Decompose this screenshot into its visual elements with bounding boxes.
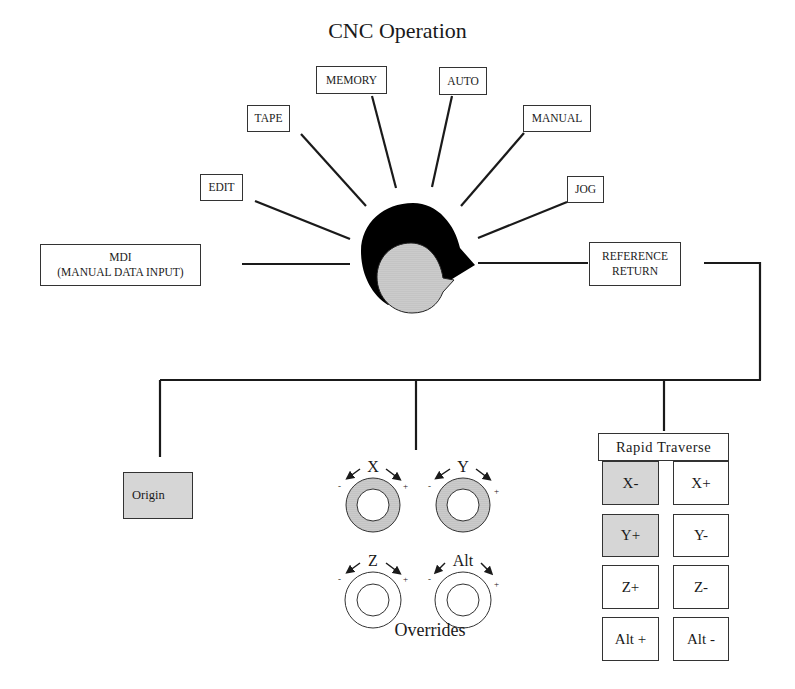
mode-reference-return-sublabel: RETURN: [612, 264, 658, 279]
dial-z-plus: +: [403, 574, 408, 584]
mode-mdi-sublabel: (MANUAL DATA INPUT): [57, 265, 183, 280]
rapid-traverse-title-text: Rapid Traverse: [616, 440, 711, 455]
rapid-z-plus-button[interactable]: Z+: [602, 565, 659, 609]
dial-y-plus: +: [494, 486, 499, 496]
override-dial-y[interactable]: Y: [443, 458, 483, 476]
mode-manual-label: MANUAL: [532, 111, 582, 126]
dial-x-label: X: [367, 458, 379, 475]
overrides-label: Overrides: [380, 620, 480, 641]
mode-mdi[interactable]: MDI (MANUAL DATA INPUT): [40, 244, 201, 286]
mode-tape-label: TAPE: [255, 111, 283, 126]
rapid-y-plus-button[interactable]: Y+: [602, 514, 659, 557]
rapid-y-plus-label: Y+: [621, 528, 640, 543]
rapid-x-minus-label: X-: [623, 476, 639, 491]
dial-x-minus: -: [338, 481, 341, 491]
rapid-x-plus-button[interactable]: X+: [673, 461, 729, 505]
mode-reference-return[interactable]: REFERENCE RETURN: [589, 242, 681, 286]
rapid-y-minus-label: Y-: [694, 528, 708, 543]
rapid-z-plus-label: Z+: [622, 580, 640, 595]
mode-edit-label: EDIT: [208, 180, 234, 195]
dial-alt-minus: -: [428, 574, 431, 584]
rapid-alt-plus-button[interactable]: Alt +: [602, 617, 659, 661]
dial-z-minus: -: [338, 574, 341, 584]
rapid-alt-plus-label: Alt +: [615, 632, 646, 647]
mode-manual[interactable]: MANUAL: [523, 105, 591, 132]
mode-mdi-label: MDI: [109, 250, 131, 265]
rapid-z-minus-button[interactable]: Z-: [673, 565, 729, 609]
mode-auto-label: AUTO: [447, 74, 479, 89]
mode-jog[interactable]: JOG: [567, 176, 604, 203]
mode-reference-return-label: REFERENCE: [602, 249, 668, 264]
dial-y-label: Y: [457, 458, 469, 475]
override-dial-x[interactable]: X: [353, 458, 393, 476]
mode-auto[interactable]: AUTO: [439, 67, 487, 95]
origin-label: Origin: [132, 488, 165, 503]
dial-alt-plus: +: [494, 579, 499, 589]
dial-alt-label: Alt: [453, 552, 473, 569]
mode-selector-knob: [361, 203, 475, 313]
mode-memory-label: MEMORY: [326, 73, 377, 88]
rapid-traverse-title: Rapid Traverse: [598, 433, 729, 461]
dial-z-label: Z: [368, 552, 378, 569]
override-dial-alt[interactable]: Alt: [443, 552, 483, 570]
mode-memory[interactable]: MEMORY: [316, 66, 387, 94]
rapid-x-minus-button[interactable]: X-: [602, 461, 659, 505]
rapid-z-minus-label: Z-: [694, 580, 708, 595]
mode-tape[interactable]: TAPE: [247, 105, 290, 132]
mode-edit[interactable]: EDIT: [200, 174, 243, 201]
dial-x-plus: +: [403, 481, 408, 491]
rapid-x-plus-label: X+: [691, 476, 710, 491]
rapid-y-minus-button[interactable]: Y-: [673, 514, 729, 557]
rapid-alt-minus-button[interactable]: Alt -: [673, 617, 729, 661]
origin-button[interactable]: Origin: [123, 472, 193, 519]
rapid-alt-minus-label: Alt -: [687, 632, 715, 647]
dial-y-minus: -: [428, 481, 431, 491]
override-dial-z[interactable]: Z: [353, 552, 393, 570]
mode-jog-label: JOG: [575, 182, 596, 197]
